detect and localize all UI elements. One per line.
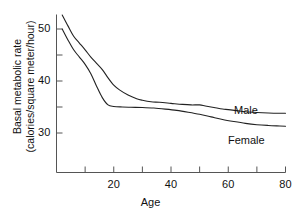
x-tick-label: 80 <box>273 178 299 190</box>
y-tick-label: 50 <box>29 22 51 34</box>
chart-figure: Basal metabolic rate (calories/square me… <box>0 0 301 215</box>
series-label-male: Male <box>234 104 258 116</box>
x-tick-label: 20 <box>101 178 127 190</box>
y-tick-label: 30 <box>29 126 51 138</box>
axis-lines <box>57 15 286 173</box>
x-axis-title: Age <box>0 196 301 208</box>
axis-ticks <box>57 29 286 173</box>
series-label-female: Female <box>228 134 265 146</box>
y-axis-title-line1: Basal metabolic rate <box>11 39 23 134</box>
x-tick-label: 40 <box>158 178 184 190</box>
y-tick-label: 40 <box>29 74 51 86</box>
x-tick-label: 60 <box>215 178 241 190</box>
